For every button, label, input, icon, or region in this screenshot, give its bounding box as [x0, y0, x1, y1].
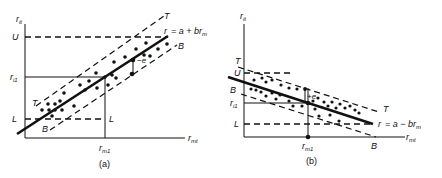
rm1-label-a: rm1 [99, 143, 110, 154]
y-axis-label-b: rit [240, 11, 246, 22]
equation-a: r= a + brm [164, 26, 207, 37]
regression-line-b [228, 77, 373, 124]
diagram-canvas: rit U ri1 L L T B T B −e r= a + brm rmt … [0, 0, 442, 178]
residual-label-a: −e [137, 56, 147, 65]
top-band-label-a: T [164, 11, 171, 21]
residual-point-a [131, 58, 136, 63]
bottom-band-label-right-b: B [371, 141, 377, 151]
top-band-label-left-a: T [32, 98, 39, 108]
ri1-label-a: ri1 [10, 72, 18, 83]
fit-point-a [103, 75, 107, 79]
caption-b: (b) [306, 156, 317, 166]
panel-a: rit U ri1 L L T B T B −e r= a + brm rmt … [10, 11, 207, 169]
panel-b: rit T U B ri1 L +e T r= a − brm B rmt rm… [228, 11, 421, 166]
lower-limit-label-b: L [234, 119, 239, 129]
caption-a: (a) [99, 159, 110, 169]
x-axis-label-b: rmt [406, 132, 416, 143]
rm1-point-b [306, 135, 311, 140]
upper-limit-label-a: U [12, 32, 19, 42]
top-band-label-b: T [235, 56, 242, 66]
equation-b: r= a − brm [378, 119, 421, 130]
regression-line-a [17, 36, 168, 134]
ri1-label-b: ri1 [230, 98, 238, 109]
upper-limit-label-b: U [234, 68, 241, 78]
bottom-band-label-a: B [178, 41, 184, 51]
residual-label-b: +e [307, 92, 317, 101]
rm1-label-b: rm1 [302, 141, 313, 152]
lower-limit-label-a: L [12, 114, 17, 124]
lower-limit-label-right-a: L [109, 114, 114, 124]
residual-fit-point-a [130, 72, 135, 77]
y-axis-label-a: rit [16, 14, 22, 25]
top-band-label-right-b: T [383, 104, 390, 114]
bottom-band-label-b: B [230, 85, 236, 95]
bottom-band-label-left-a: B [42, 124, 48, 134]
fit-point-b [306, 101, 311, 106]
x-axis-label-a: rmt [188, 133, 198, 144]
